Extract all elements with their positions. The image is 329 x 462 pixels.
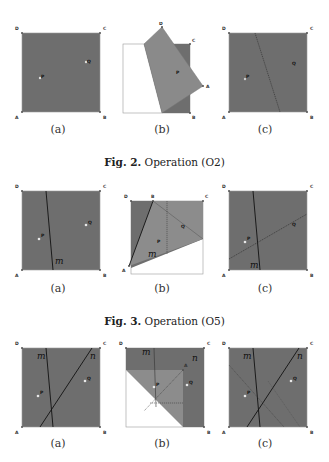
vertex-a-label: A (15, 115, 19, 120)
line-n-label: n (297, 351, 303, 361)
vertex-b-label: B (103, 430, 107, 435)
fig4-panel-b: D C A B P Q m n (114, 341, 214, 437)
point-q-label: Q (293, 376, 297, 381)
caption-text: Operation (O2) (141, 156, 225, 168)
vertex-b-label: B (310, 115, 314, 120)
fig4-panel-a: D C A B P Q m n (14, 341, 114, 437)
point-q-label: Q (292, 61, 296, 66)
line-m-label: m (37, 351, 46, 361)
fig4-panel-c: D C A B P Q m n (220, 341, 320, 437)
vertex-d-label: D (124, 194, 128, 199)
vertex-c-label: C (192, 38, 196, 43)
vertex-c-label: C (103, 184, 107, 189)
fig3-panel-c: D C A B P Q m (220, 184, 320, 280)
line-m-label: m (142, 347, 151, 357)
square-paper-diagram: D C A B P Q (14, 26, 114, 122)
vertex-b-label: B (310, 273, 314, 278)
square-paper-diagram: D C A B P Q m (220, 184, 320, 280)
subfigure-label-a: (a) (28, 282, 88, 295)
line-n-label: n (90, 351, 96, 361)
subfigure-label-a: (a) (28, 123, 88, 136)
fig2-panel-b: D C A B P (114, 22, 214, 122)
vertex-c-label: C (310, 341, 314, 346)
point-q-label: Q (87, 59, 91, 64)
vertex-b-label: B (103, 115, 107, 120)
vertex-d-label: D (222, 184, 226, 189)
vertex-d-label: D (15, 341, 19, 346)
square-paper-diagram: D C A B P Q (220, 26, 320, 122)
line-n-label: n (192, 353, 198, 363)
caption-text: Operation (O5) (141, 315, 225, 327)
folded-paper-diagram: D C A B P (114, 22, 214, 122)
vertex-a-label: A (222, 115, 226, 120)
line-m-label: m (55, 256, 64, 266)
figure-caption-fig3: Fig. 3. Operation (O5) (0, 315, 329, 327)
folded-paper-diagram: D B C A P Q m (114, 184, 214, 280)
line-m-label: m (148, 249, 157, 259)
figure-caption-fig2: Fig. 2. Operation (O2) (0, 156, 329, 168)
subfigure-label-b: (b) (132, 123, 192, 136)
vertex-d-label: D (222, 26, 226, 31)
vertex-a-label: A (206, 84, 210, 89)
subfigure-label-c: (c) (235, 282, 295, 295)
caption-prefix: Fig. 3. (104, 315, 141, 327)
vertex-d-label: D (15, 184, 19, 189)
vertex-d-label: D (222, 341, 226, 346)
subfigure-label-c: (c) (235, 437, 295, 450)
vertex-b-label: B (192, 115, 196, 120)
fig2-panel-a: D C A B P Q (14, 26, 114, 122)
vertex-c-label: C (207, 341, 211, 346)
vertex-d-label: D (15, 26, 19, 31)
vertex-c-label: C (310, 26, 314, 31)
subfigure-label-b: (b) (132, 282, 192, 295)
vertex-b-label: B (103, 273, 107, 278)
vertex-d-label: D (159, 22, 163, 26)
vertex-a-label: A (122, 268, 126, 273)
vertex-c-label: C (103, 341, 107, 346)
subfigure-label-b: (b) (132, 437, 192, 450)
vertex-a-label: A (222, 273, 226, 278)
vertex-b-label: B (310, 430, 314, 435)
vertex-b-label: B (207, 430, 211, 435)
point-q-label: Q (189, 380, 193, 385)
point-q-label: Q (292, 222, 296, 227)
vertex-c-label: C (103, 26, 107, 31)
vertex-a-label: A (184, 363, 188, 368)
line-m-label: m (250, 260, 259, 270)
vertex-a-label: A (15, 273, 19, 278)
square-paper-diagram: D C A B P Q m n (220, 341, 320, 437)
vertex-d-label: D (119, 341, 123, 346)
point-q-label: Q (88, 220, 92, 225)
fig3-panel-b: D B C A P Q m (114, 184, 214, 280)
line-m-label: m (243, 351, 252, 361)
point-q-label: Q (181, 224, 185, 229)
subfigure-label-a: (a) (28, 437, 88, 450)
vertex-b-label: B (151, 194, 155, 199)
vertex-a-label: A (222, 430, 226, 435)
fig3-panel-a: D C A B P Q m (14, 184, 114, 280)
square-paper-diagram: D C A B P Q m (14, 184, 114, 280)
subfigure-label-c: (c) (235, 123, 295, 136)
vertex-a-label: A (15, 430, 19, 435)
vertex-c-label: C (205, 194, 209, 199)
vertex-c-label: C (310, 184, 314, 189)
caption-prefix: Fig. 2. (104, 156, 141, 168)
fig2-panel-c: D C A B P Q (220, 26, 320, 122)
square-paper-diagram: D C A B P Q m n (14, 341, 114, 437)
folded-paper-diagram: D C A B P Q m n (114, 341, 214, 437)
point-q-label: Q (87, 376, 91, 381)
